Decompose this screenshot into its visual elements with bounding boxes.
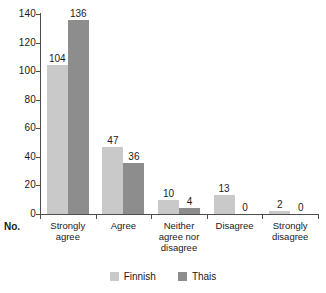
bar-value-label: 13 <box>219 183 230 194</box>
legend-label: Finnish <box>124 271 156 282</box>
bar-fill <box>123 163 144 214</box>
bar-fill <box>102 147 123 214</box>
y-tick-label-40: 40 <box>2 152 36 162</box>
category-label-line: agree nor <box>145 231 213 242</box>
legend-swatch-icon <box>110 272 119 281</box>
legend-item-finnish[interactable]: Finnish <box>110 271 156 282</box>
x-tick-1 <box>96 214 97 219</box>
bar-group-1: 104136 <box>40 14 96 214</box>
chart-legend: FinnishThais <box>0 271 326 282</box>
legend-item-thais[interactable]: Thais <box>178 271 216 282</box>
bar-value-label: 4 <box>187 196 193 207</box>
bar-value-label: 36 <box>128 151 139 162</box>
category-label-line: disagree <box>256 231 324 242</box>
bar-group-4: 130 <box>207 14 263 214</box>
y-tick-label-80: 80 <box>2 95 36 105</box>
bar-group-5: 20 <box>262 14 318 214</box>
y-tick-label-20: 20 <box>2 180 36 190</box>
x-tick-2 <box>151 214 152 219</box>
bar-finnish-4[interactable]: 13 <box>214 14 235 214</box>
y-tick-label-0: 0 <box>2 209 36 219</box>
category-label-5: Stronglydisagree <box>256 220 324 242</box>
bar-finnish-5[interactable]: 2 <box>269 14 290 214</box>
y-tick-label-140: 140 <box>2 9 36 19</box>
bar-finnish-3[interactable]: 10 <box>158 14 179 214</box>
bar-finnish-1[interactable]: 104 <box>47 14 68 214</box>
bar-fill <box>158 200 179 214</box>
bar-finnish-2[interactable]: 47 <box>102 14 123 214</box>
x-tick-0 <box>40 214 41 219</box>
y-tick-label-120: 120 <box>2 38 36 48</box>
bar-fill <box>179 208 200 214</box>
bar-value-label: 0 <box>242 202 248 213</box>
bar-fill <box>68 20 89 214</box>
bar-thais-5[interactable]: 0 <box>290 14 311 214</box>
x-axis-line <box>40 214 318 215</box>
bar-thais-1[interactable]: 136 <box>68 14 89 214</box>
bar-fill <box>47 65 68 214</box>
bar-thais-3[interactable]: 4 <box>179 14 200 214</box>
y-tick-label-100: 100 <box>2 66 36 76</box>
y-tick-label-60: 60 <box>2 123 36 133</box>
bar-thais-4[interactable]: 0 <box>235 14 256 214</box>
legend-swatch-icon <box>178 272 187 281</box>
bar-value-label: 136 <box>70 8 87 19</box>
chart-screenshot: 020406080100120140 104136473610413020 St… <box>0 0 326 293</box>
bar-group-2: 4736 <box>96 14 152 214</box>
legend-label: Thais <box>192 271 216 282</box>
category-label-line: agree <box>34 231 102 242</box>
bar-group-3: 104 <box>151 14 207 214</box>
bar-value-label: 2 <box>277 199 283 210</box>
x-tick-5 <box>318 214 319 219</box>
bar-value-label: 10 <box>163 188 174 199</box>
category-label-line: disagree <box>145 242 213 253</box>
category-label-line: Strongly <box>256 220 324 231</box>
axis-caption: No. <box>4 221 20 232</box>
bar-value-label: 0 <box>298 202 304 213</box>
bar-thais-2[interactable]: 36 <box>123 14 144 214</box>
x-tick-4 <box>262 214 263 219</box>
bar-fill <box>214 195 235 214</box>
bar-value-label: 47 <box>107 135 118 146</box>
bar-fill <box>269 211 290 214</box>
bar-value-label: 104 <box>49 53 66 64</box>
x-tick-3 <box>207 214 208 219</box>
